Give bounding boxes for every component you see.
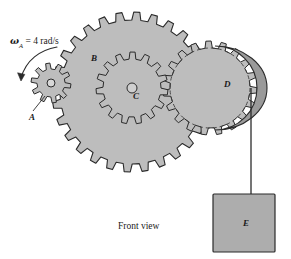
label-a-leader-line: [33, 96, 45, 111]
front-view-gear-train-figure: ωA = 4 rad/s A B C D E Front view: [0, 0, 291, 259]
part-label-b: B: [91, 54, 97, 63]
omega-value: = 4 rad/s: [23, 36, 59, 46]
figure-caption: Front view: [118, 222, 159, 232]
part-label-c: C: [133, 92, 139, 101]
part-label-d: D: [224, 80, 231, 89]
angular-velocity-label: ωA = 4 rad/s: [10, 36, 59, 48]
omega-arrow-head: [18, 73, 25, 81]
part-label-a: A: [29, 113, 35, 122]
omega-subscript: A: [19, 42, 23, 49]
omega-symbol: ω: [10, 35, 19, 46]
part-label-e: E: [243, 219, 249, 228]
gear-a-hub: [47, 79, 55, 87]
